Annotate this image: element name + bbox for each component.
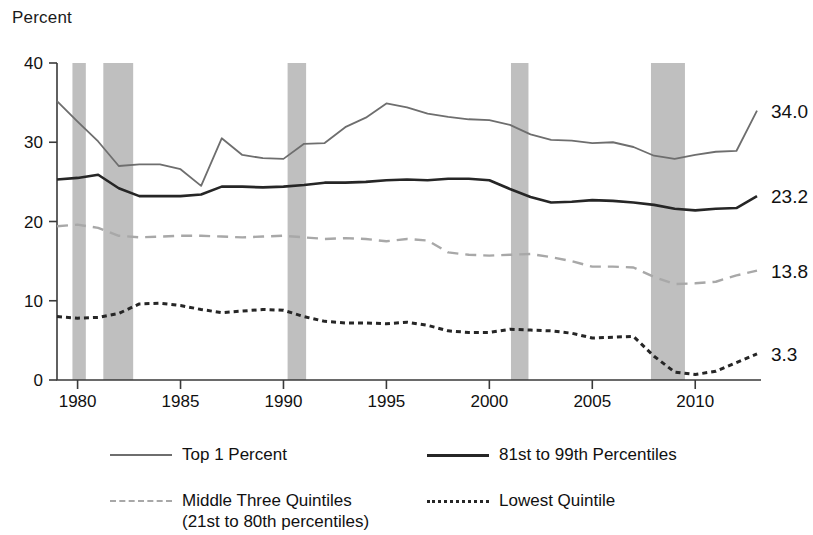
recession-band [511,63,529,380]
series-end-value-label: 34.0 [771,101,808,122]
legend-item-top-1-percent: Top 1 Percent [110,440,369,470]
line-chart-plot: 010203040198019851990199520002005201034.… [0,0,813,430]
y-tick-label: 0 [34,371,43,390]
legend-label-lowest-quintile: Lowest Quintile [499,491,615,511]
chart-container: Percent 01020304019801985199019952000200… [0,0,813,535]
legend-swatch-top-1-percent [110,448,172,462]
series-end-value-label: 3.3 [771,344,797,365]
y-tick-label: 40 [24,54,43,73]
legend-column-right: 81st to 99th Percentiles Lowest Quintile [427,440,677,516]
legend-item-81st-to-99th-percentiles: 81st to 99th Percentiles [427,440,677,470]
recession-band [288,63,307,380]
recession-band [651,63,685,380]
series-end-value-label: 23.2 [771,186,808,207]
legend-column-left: Top 1 Percent Middle Three Quintiles (21… [110,440,369,532]
x-tick-label: 1980 [59,392,97,411]
x-tick-label: 2005 [573,392,611,411]
y-tick-label: 30 [24,133,43,152]
x-tick-label: 1990 [265,392,303,411]
x-tick-label: 1985 [162,392,200,411]
y-tick-label: 10 [24,292,43,311]
recession-band [103,63,133,380]
x-tick-label: 2010 [676,392,714,411]
legend-swatch-81st-to-99th-percentiles [427,448,489,462]
legend-swatch-middle-three-quintiles [110,494,172,508]
legend-label-81st-to-99th-percentiles: 81st to 99th Percentiles [499,445,677,465]
legend-sublabel-middle-three-quintiles: (21st to 80th percentiles) [182,512,369,532]
chart-legend: Top 1 Percent Middle Three Quintiles (21… [0,430,813,535]
series-end-value-label: 13.8 [771,261,808,282]
x-tick-label: 1995 [367,392,405,411]
legend-label-top-1-percent: Top 1 Percent [182,445,287,465]
recession-band [72,63,85,380]
y-tick-label: 20 [24,213,43,232]
legend-swatch-lowest-quintile [427,494,489,508]
legend-item-lowest-quintile: Lowest Quintile [427,486,677,516]
legend-label-middle-three-quintiles: Middle Three Quintiles [182,491,352,511]
x-tick-label: 2000 [470,392,508,411]
